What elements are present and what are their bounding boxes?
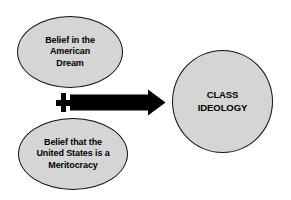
- node-american-dream[interactable]: Belief in the American Dream: [17, 16, 123, 88]
- node-meritocracy-label: Belief that the United States is a Merit…: [36, 137, 109, 172]
- plus-icon: [56, 93, 71, 112]
- plus-icon-vertical-bar: [61, 93, 67, 112]
- node-class-ideology[interactable]: CLASS IDEOLOGY: [172, 50, 273, 153]
- node-american-dream-label: Belief in the American Dream: [45, 35, 95, 70]
- diagram-canvas: Belief in the American Dream Belief that…: [0, 0, 291, 200]
- node-meritocracy[interactable]: Belief that the United States is a Merit…: [18, 118, 128, 190]
- right-arrow-shape: [70, 90, 166, 116]
- right-arrow-icon: [70, 88, 166, 117]
- node-class-ideology-label: CLASS IDEOLOGY: [198, 89, 247, 114]
